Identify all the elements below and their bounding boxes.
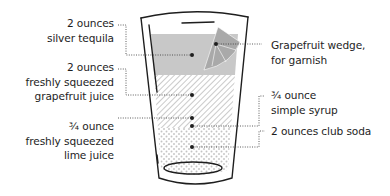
label-simple-syrup: ¾ ounce simple syrup [271, 88, 338, 117]
label-silver-tequila: 2 ounces silver tequila [47, 16, 114, 45]
label-grapefruit-wedge: Grapefruit wedge, for garnish [271, 38, 365, 67]
label-club-soda: 2 ounces club soda [271, 124, 371, 139]
lime-juice-layer [140, 118, 250, 128]
label-lime-juice: ¾ ounce freshly squeezed lime juice [26, 119, 114, 163]
grapefruit-juice-layer [140, 75, 250, 118]
label-grapefruit-juice: 2 ounces freshly squeezed grapefruit jui… [26, 60, 114, 104]
